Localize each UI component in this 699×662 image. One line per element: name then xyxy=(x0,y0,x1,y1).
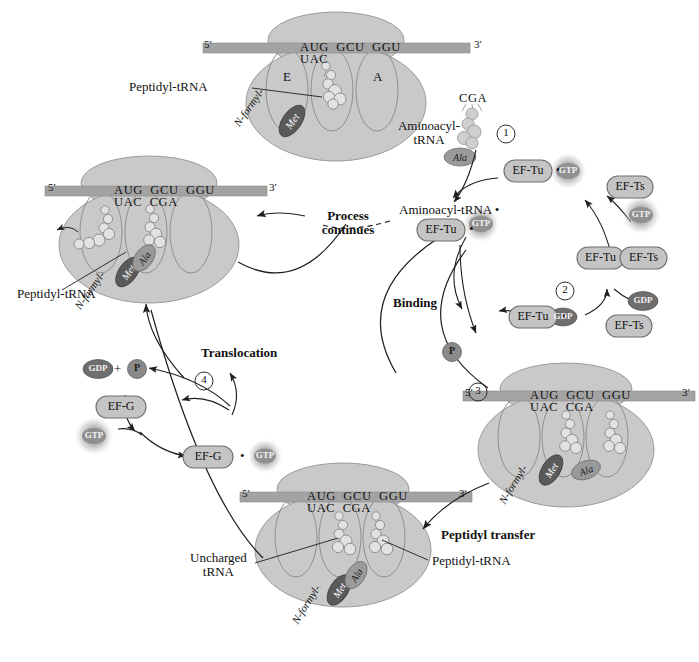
ef-g-gtp-token: GTP xyxy=(253,451,277,461)
ef-tu-complex-capsule: EF-Tu xyxy=(417,223,465,236)
aminoacyl-trna-anticodon: CGA xyxy=(459,92,487,106)
ef-ts-top-capsule: EF-Ts xyxy=(607,180,653,193)
ef-tu-gdp-capsule: EF-Tu xyxy=(509,310,557,323)
ef-g-free-gtp-token: GTP xyxy=(82,431,106,441)
process-continues-label: Processcontinues xyxy=(310,209,386,237)
ef-g-plus-sign: + xyxy=(114,362,121,376)
ef-g-gdp-token: GDP xyxy=(86,364,110,374)
ef-tu-ts-right: EF-Ts xyxy=(620,251,667,264)
three-prime-left: 3′ xyxy=(269,182,277,194)
peptidyl-transfer-label: Peptidyl transfer xyxy=(441,528,535,542)
free-gdp-token: GDP xyxy=(631,296,655,306)
step-number-2: 2 xyxy=(556,284,574,296)
ef-tu-gtp-capsule: EF-Tu xyxy=(504,164,552,177)
five-prime-bottom: 5′ xyxy=(242,488,250,500)
ef-g-capsule: EF-G xyxy=(96,400,146,413)
ribosome-right-graphic: Met Ala xyxy=(463,363,695,507)
ef-tu-ts-left: EF-Tu xyxy=(577,251,624,264)
ef-g-phosphate-token: P xyxy=(130,363,144,374)
step-number-4: 4 xyxy=(195,374,213,386)
three-prime-right: 3′ xyxy=(682,387,690,399)
anticodons-right: UAC CGA xyxy=(530,401,594,415)
figure-canvas: Met Met Ala xyxy=(0,0,699,662)
ef-ts-bottom-capsule: EF-Ts xyxy=(606,319,652,332)
ribosome-left-graphic: Met Ala xyxy=(45,156,267,303)
peptidyl-trna-label-bottom: Peptidyl-tRNA xyxy=(432,554,511,568)
step-number-1: 1 xyxy=(497,127,515,139)
five-prime-left: 5′ xyxy=(48,182,56,194)
step-number-3: 3 xyxy=(469,385,487,397)
three-prime-bottom: 3′ xyxy=(459,488,467,500)
free-gtp-token: GTP xyxy=(629,210,653,220)
released-phosphate-token: P xyxy=(445,346,459,357)
uncharged-trna-label: Uncharged tRNA xyxy=(190,551,247,579)
aminoacyl-trna-label: Aminoacyl-tRNA xyxy=(396,119,462,147)
three-prime-top: 3′ xyxy=(474,39,482,51)
gtp-token-complex: GTP xyxy=(469,219,493,229)
five-prime-top: 5′ xyxy=(204,39,212,51)
peptidyl-trna-label-top: Peptidyl-tRNA xyxy=(129,80,208,94)
ef-g-gtp-dot: • xyxy=(240,449,245,463)
binding-label: Binding xyxy=(393,296,437,310)
site-label-a-top: A xyxy=(373,70,382,84)
aminoacyl-trna-complex-label: Aminoacyl-tRNA • xyxy=(399,203,499,217)
anticodons-left: UAC CGA xyxy=(114,196,178,210)
anticodon-top-1: UAC xyxy=(300,53,328,67)
site-label-e-top: E xyxy=(283,70,291,84)
gdp-token-ef-tu: GDP xyxy=(551,312,575,322)
anticodons-bottom: UAC CGA xyxy=(307,502,371,516)
ribosome-bottom-graphic: Met Ala xyxy=(240,463,472,609)
translocation-label: Translocation xyxy=(201,346,277,360)
gtp-token-ef-tu: GTP xyxy=(556,166,580,176)
diagram-artwork: Met Met Ala xyxy=(0,0,699,662)
svg-text:Ala: Ala xyxy=(452,152,467,163)
ef-g-gtp-capsule: EF-G xyxy=(183,450,233,463)
